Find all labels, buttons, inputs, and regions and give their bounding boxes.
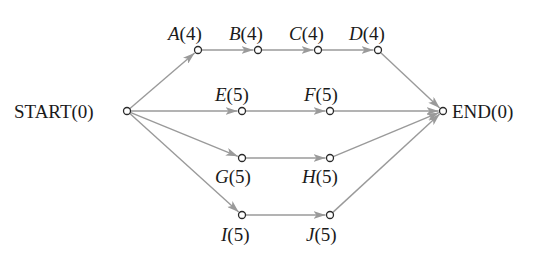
node-e — [239, 108, 246, 115]
node-j — [327, 212, 334, 219]
node-name-f: F — [304, 84, 316, 105]
node-name-h: H — [302, 166, 316, 187]
node-label-b: B(4) — [229, 24, 263, 43]
node-label-d: D(4) — [349, 24, 385, 43]
node-label-h: H(5) — [302, 167, 338, 186]
node-weight-h: (5) — [316, 166, 338, 187]
edge-start-i — [130, 113, 239, 212]
node-a — [195, 47, 202, 54]
node-g — [239, 155, 246, 162]
node-c — [315, 47, 322, 54]
node-name-e: E — [215, 84, 227, 105]
node-label-start: START(0) — [14, 102, 94, 121]
edges — [130, 50, 440, 215]
edge-start-a — [130, 53, 195, 109]
node-start — [124, 108, 131, 115]
node-h — [327, 155, 334, 162]
node-weight-d: (4) — [363, 23, 385, 44]
node-d — [375, 47, 382, 54]
node-weight-e: (5) — [227, 84, 249, 105]
node-weight-g: (5) — [229, 166, 251, 187]
node-name-g: G — [215, 166, 229, 187]
node-f — [327, 108, 334, 115]
node-i — [239, 212, 246, 219]
node-name-d: D — [349, 23, 363, 44]
node-b — [255, 47, 262, 54]
node-label-g: G(5) — [215, 167, 251, 186]
node-label-i: I(5) — [221, 225, 249, 244]
node-label-a: A(4) — [168, 24, 202, 43]
node-label-end: END(0) — [452, 102, 513, 121]
node-weight-f: (5) — [316, 84, 338, 105]
node-weight-c: (4) — [302, 23, 324, 44]
node-label-j: J(5) — [306, 225, 337, 244]
node-weight-a: (4) — [180, 23, 202, 44]
node-name-a: A — [168, 23, 180, 44]
node-end — [440, 108, 447, 115]
node-label-c: C(4) — [289, 24, 324, 43]
edge-h-end — [333, 113, 439, 157]
network-diagram — [0, 0, 539, 263]
node-weight-b: (4) — [241, 23, 263, 44]
node-name-b: B — [229, 23, 241, 44]
edge-d-end — [381, 52, 440, 108]
node-weight-j: (5) — [314, 224, 336, 245]
node-label-f: F(5) — [304, 85, 338, 104]
node-name-c: C — [289, 23, 302, 44]
edge-j-end — [333, 114, 440, 213]
node-label-e: E(5) — [215, 85, 249, 104]
node-weight-i: (5) — [227, 224, 249, 245]
edge-start-g — [130, 112, 238, 156]
